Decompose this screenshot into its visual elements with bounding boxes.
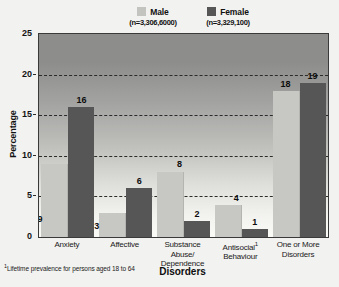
x-label-line1: One or More <box>269 240 327 250</box>
y-tick-mark <box>33 155 36 156</box>
legend-label-female: Female <box>220 7 249 17</box>
x-label-line1: Anxiety <box>38 240 96 250</box>
y-tick-label: 5 <box>27 190 32 200</box>
x-label-line1: Antisocial1 <box>211 240 269 252</box>
bar-group-antisocial-behaviour: 4 1 <box>212 34 270 237</box>
x-label-line2: Behaviour <box>211 252 269 262</box>
bar-male[interactable]: 3 <box>99 213 126 237</box>
bar-value-label: 16 <box>76 95 86 105</box>
bar-group-affective: 3 6 <box>97 34 155 237</box>
y-tick-label: 0 <box>27 231 32 241</box>
bar-value-label: 6 <box>137 176 142 186</box>
bar-female[interactable]: 19 <box>300 83 326 237</box>
bar-group-substance-abuse-dependence: 8 2 <box>155 34 213 237</box>
bar-female[interactable]: 6 <box>126 188 152 237</box>
y-tick-mark <box>33 114 36 115</box>
y-tick-label: 15 <box>22 109 32 119</box>
male-swatch-icon <box>137 7 146 16</box>
x-label-line1-text: Antisocial <box>223 243 255 252</box>
bar-value-label: 9 <box>38 214 42 224</box>
y-tick-mark <box>33 195 36 196</box>
bar-male[interactable]: 4 <box>215 205 242 238</box>
chart-legend: Male (n=3,306,6000) Female (n=3,329,100) <box>118 6 263 27</box>
bar-male[interactable]: 8 <box>157 172 184 237</box>
legend-item-male: Male (n=3,306,6000) <box>118 6 188 27</box>
bar-male[interactable]: 9 <box>41 164 68 237</box>
bar-value-label: 4 <box>234 193 239 203</box>
chart-figure: Male (n=3,306,6000) Female (n=3,329,100)… <box>0 0 339 287</box>
y-tick-label: 20 <box>22 69 32 79</box>
bar-value-label: 18 <box>281 79 291 89</box>
bar-female[interactable]: 2 <box>184 221 210 237</box>
bar-group-one-or-more-disorders: 18 19 <box>270 34 328 237</box>
bar-series-container: 9 16 3 6 8 2 <box>39 34 328 237</box>
footnote-marker: 1 <box>255 241 258 247</box>
legend-sublabel-female: (n=3,329,100) <box>193 18 263 27</box>
bar-value-label: 1 <box>252 217 257 227</box>
bar-value-label: 19 <box>308 71 318 81</box>
female-swatch-icon <box>207 7 216 16</box>
footnote-text: Lifetime prevalence for persons aged 18 … <box>7 265 135 272</box>
x-label-one-or-more-disorders: One or More Disorders <box>269 240 327 269</box>
x-label-line1: Affective <box>96 240 154 250</box>
plot-area: 9 16 3 6 8 2 <box>38 33 329 238</box>
y-axis-title: Percentage <box>8 104 18 164</box>
bar-value-label: 8 <box>177 159 182 169</box>
legend-item-female: Female (n=3,329,100) <box>193 6 263 27</box>
y-tick-mark <box>33 74 36 75</box>
chart-footnote: 1Lifetime prevalence for persons aged 18… <box>4 263 135 272</box>
x-label-line1: Substance Abuse/ <box>154 240 212 259</box>
x-label-antisocial-behaviour: Antisocial1 Behaviour <box>211 240 269 269</box>
y-tick-label: 10 <box>22 150 32 160</box>
bar-group-anxiety: 9 16 <box>39 34 97 237</box>
bar-male[interactable]: 18 <box>273 91 300 237</box>
x-label-line2: Disorders <box>269 250 327 260</box>
bar-value-label: 3 <box>94 221 99 231</box>
y-tick-label: 25 <box>22 28 32 38</box>
legend-label-male: Male <box>150 7 169 17</box>
y-axis: Percentage 25 20 15 10 5 0 <box>0 33 36 236</box>
bar-value-label: 2 <box>194 209 199 219</box>
bar-female[interactable]: 1 <box>242 229 268 237</box>
legend-sublabel-male: (n=3,306,6000) <box>118 18 188 27</box>
x-label-substance-abuse-dependence: Substance Abuse/ Dependence <box>154 240 212 269</box>
bar-female[interactable]: 16 <box>68 107 94 237</box>
